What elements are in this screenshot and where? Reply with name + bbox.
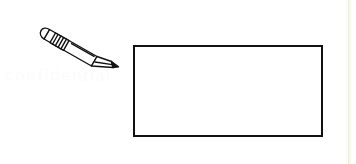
pencil-icon: [33, 16, 123, 72]
answer-box[interactable]: [133, 45, 323, 137]
pencil-graphite-tip: [112, 62, 119, 68]
scan-page: confidential: [0, 0, 356, 164]
pencil-barrel: [44, 30, 97, 67]
page-edge-band: [345, 0, 352, 164]
pencil-drawing: [33, 16, 123, 72]
page-edge-line: [348, 0, 349, 164]
